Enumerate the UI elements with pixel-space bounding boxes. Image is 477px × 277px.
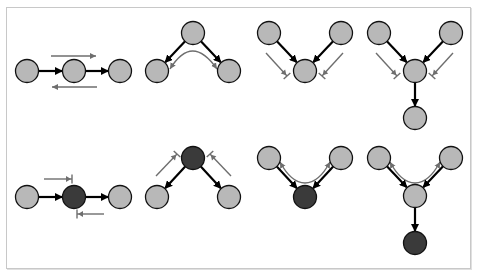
flow-arrow: [170, 51, 217, 69]
edge-arrow: [423, 41, 443, 62]
unobserved-node: [258, 147, 281, 170]
unobserved-node: [182, 22, 205, 45]
observed-node: [294, 186, 317, 209]
unobserved-node: [218, 60, 241, 83]
blocked-flow-icon: [322, 53, 343, 76]
unobserved-node: [330, 147, 353, 170]
unobserved-node: [440, 22, 463, 45]
flow-arrows: [44, 51, 453, 214]
edge-arrow: [277, 41, 297, 62]
blocked-flow-icon: [156, 154, 177, 176]
unobserved-node: [63, 60, 86, 83]
edge-arrow: [313, 41, 333, 62]
blocked-flow-icon: [210, 154, 231, 176]
edge-arrow: [313, 166, 333, 188]
unobserved-node: [294, 60, 317, 83]
d-separation-diagram: [0, 0, 477, 277]
edge-arrow: [165, 166, 185, 188]
flow-arrow: [280, 162, 330, 183]
unobserved-node: [404, 107, 427, 130]
edge-arrow: [201, 41, 221, 62]
edge-arrow: [201, 166, 221, 188]
blocked-flow-icon: [266, 53, 287, 76]
unobserved-node: [404, 60, 427, 83]
blocked-flow-icon: [376, 53, 397, 76]
edge-arrow: [387, 41, 407, 62]
observed-node: [404, 232, 427, 255]
observed-node: [63, 186, 86, 209]
unobserved-node: [404, 185, 427, 208]
flow-arrow: [390, 162, 440, 183]
edge-arrow: [423, 166, 443, 187]
edge-arrow: [277, 166, 297, 188]
unobserved-node: [109, 186, 132, 209]
blocked-flow-icon: [432, 53, 453, 76]
unobserved-node: [218, 186, 241, 209]
unobserved-node: [258, 22, 281, 45]
edge-arrow: [165, 41, 185, 62]
unobserved-node: [330, 22, 353, 45]
observed-node: [182, 147, 205, 170]
unobserved-node: [368, 147, 391, 170]
unobserved-node: [440, 147, 463, 170]
unobserved-node: [16, 186, 39, 209]
unobserved-node: [16, 60, 39, 83]
unobserved-node: [146, 60, 169, 83]
edge-arrow: [387, 166, 407, 187]
unobserved-node: [368, 22, 391, 45]
unobserved-node: [109, 60, 132, 83]
unobserved-node: [146, 186, 169, 209]
